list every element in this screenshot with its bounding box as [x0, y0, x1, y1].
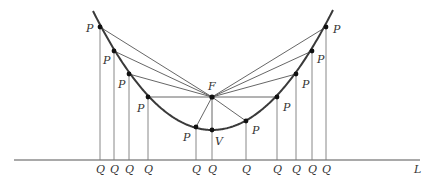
foot-label: Q	[292, 163, 301, 176]
axis-label: L	[413, 163, 421, 176]
foot-label: Q	[322, 163, 331, 176]
point-label: P	[316, 53, 325, 66]
foot-label: Q	[96, 163, 105, 176]
foot-label: Q	[125, 163, 134, 176]
perpendicular-lines	[100, 27, 326, 160]
point-label: P	[136, 102, 145, 115]
point-marker	[98, 25, 103, 30]
point-label: P	[182, 131, 191, 144]
point-label: P	[301, 78, 310, 91]
point-label: P	[102, 54, 111, 67]
curve-points	[98, 25, 329, 133]
point-marker	[194, 125, 199, 130]
parabola-diagram: L PQPQPQPQPQQPQPQPQPQPQFV	[0, 0, 432, 188]
point-marker	[146, 95, 151, 100]
focus-marker	[209, 94, 214, 99]
foot-label: Q	[273, 163, 282, 176]
foot-label: Q	[110, 163, 119, 176]
point-marker	[244, 119, 249, 124]
point-label: P	[251, 124, 260, 137]
vertex-label: V	[215, 135, 224, 148]
point-label: P	[117, 78, 126, 91]
point-label: P	[332, 23, 341, 36]
point-marker	[310, 49, 315, 54]
point-label: P	[282, 101, 291, 114]
focus-label: F	[207, 80, 216, 93]
focal-line	[196, 97, 212, 127]
foot-label: Q	[192, 163, 201, 176]
point-marker	[112, 49, 117, 54]
foot-label: Q	[308, 163, 317, 176]
focal-line	[100, 27, 212, 97]
point-marker	[294, 72, 299, 77]
point-label: P	[85, 22, 94, 35]
point-marker	[275, 95, 280, 100]
foot-label: Q	[208, 163, 217, 176]
point-marker	[324, 25, 329, 30]
point-marker	[127, 72, 132, 77]
foot-label: Q	[242, 163, 251, 176]
point-marker	[210, 128, 215, 133]
foot-label: Q	[144, 163, 153, 176]
directrix-axis: L	[14, 160, 421, 176]
focal-line	[212, 97, 246, 121]
